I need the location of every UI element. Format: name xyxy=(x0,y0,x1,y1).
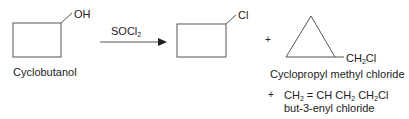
reagent-label: SOCl2 xyxy=(111,26,141,37)
ch2cl-main: CH xyxy=(346,52,362,64)
plus-sign-1: + xyxy=(265,35,271,45)
formula-part: CH xyxy=(284,89,300,101)
formula-part: = CH CH xyxy=(304,89,351,101)
oh-bond xyxy=(61,13,72,23)
reagent-subscript: 2 xyxy=(137,31,141,38)
cyclopropane-ring xyxy=(286,16,335,57)
oh-label: OH xyxy=(74,9,91,20)
reaction-arrow-head xyxy=(158,38,167,46)
cyclopropyl-methyl-chloride-name: Cyclopropyl methyl chloride xyxy=(270,69,405,80)
ch2cl-label: CH2Cl xyxy=(346,53,376,64)
butenyl-chloride-name: but-3-enyl chloride xyxy=(284,103,375,114)
cyclobutane-ring-product xyxy=(177,24,226,57)
formula-part: Cl xyxy=(378,89,388,101)
cl-label: Cl xyxy=(238,10,248,21)
cl-bond xyxy=(226,15,236,24)
formula-part: CH xyxy=(355,89,374,101)
plus-sign-2: + xyxy=(268,90,274,100)
butenyl-chloride-formula: CH2 = CH CH2 CH2Cl xyxy=(284,90,388,101)
cyclobutane-ring-reactant xyxy=(13,23,61,57)
cyclobutanol-name: Cyclobutanol xyxy=(13,67,77,78)
ch2cl-tail: Cl xyxy=(366,52,376,64)
reagent-main: SOCl xyxy=(111,25,137,37)
